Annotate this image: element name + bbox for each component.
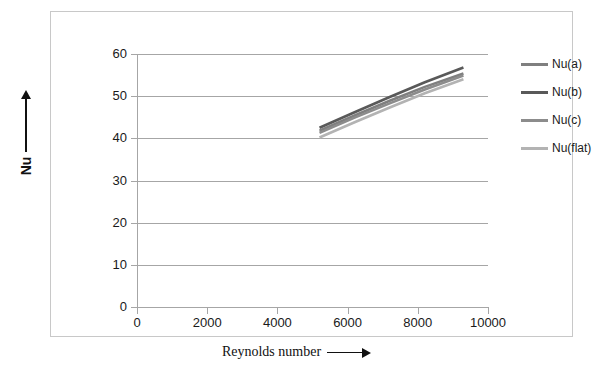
legend-swatch-icon xyxy=(521,63,548,66)
x-tick-label-4000: 4000 xyxy=(242,316,312,329)
x-tick-label-8000: 8000 xyxy=(383,316,453,329)
gridline-y-0 xyxy=(137,307,488,308)
legend-label: Nu(c) xyxy=(552,113,581,127)
chart-legend: Nu(a)Nu(b)Nu(c)Nu(flat) xyxy=(521,50,593,162)
y-axis-tick-labels: 0102030405060 xyxy=(87,12,127,336)
legend-label: Nu(a) xyxy=(552,57,582,71)
chart-frame: 0102030405060 0200040006000800010000 Nu(… xyxy=(50,11,573,337)
y-tick-label-20: 20 xyxy=(93,216,127,229)
y-tick-label-30: 30 xyxy=(93,174,127,187)
y-tick-label-0: 0 xyxy=(93,300,127,313)
x-axis-arrow-icon xyxy=(327,348,371,358)
x-tick-6000 xyxy=(348,307,349,314)
series-line-nuflat xyxy=(320,79,464,137)
x-tick-10000 xyxy=(488,307,489,314)
x-tick-label-10000: 10000 xyxy=(453,316,523,329)
x-tick-0 xyxy=(137,307,138,314)
legend-label: Nu(b) xyxy=(552,85,582,99)
x-tick-4000 xyxy=(277,307,278,314)
y-tick-label-60: 60 xyxy=(93,47,127,60)
series-line-nub xyxy=(320,67,464,127)
y-axis-title: Nu xyxy=(8,90,42,210)
legend-swatch-icon xyxy=(521,147,548,150)
legend-item-nuflat[interactable]: Nu(flat) xyxy=(521,134,593,162)
x-axis-title-text: Reynolds number xyxy=(222,344,321,359)
plot-area xyxy=(137,54,488,307)
y-axis-title-text: Nu xyxy=(18,136,34,196)
x-tick-2000 xyxy=(207,307,208,314)
legend-item-nub[interactable]: Nu(b) xyxy=(521,78,593,106)
legend-swatch-icon xyxy=(521,119,548,122)
x-tick-8000 xyxy=(418,307,419,314)
legend-label: Nu(flat) xyxy=(552,141,591,155)
y-tick-label-10: 10 xyxy=(93,258,127,271)
x-tick-label-6000: 6000 xyxy=(313,316,383,329)
legend-item-nua[interactable]: Nu(a) xyxy=(521,50,593,78)
x-tick-label-0: 0 xyxy=(102,316,172,329)
series-line-nuc xyxy=(320,76,464,133)
y-tick-label-50: 50 xyxy=(93,89,127,102)
series-lines xyxy=(137,54,488,307)
legend-item-nuc[interactable]: Nu(c) xyxy=(521,106,593,134)
x-tick-label-2000: 2000 xyxy=(172,316,242,329)
x-axis-title: Reynolds number xyxy=(0,344,593,360)
y-tick-label-40: 40 xyxy=(93,131,127,144)
legend-swatch-icon xyxy=(521,91,548,94)
